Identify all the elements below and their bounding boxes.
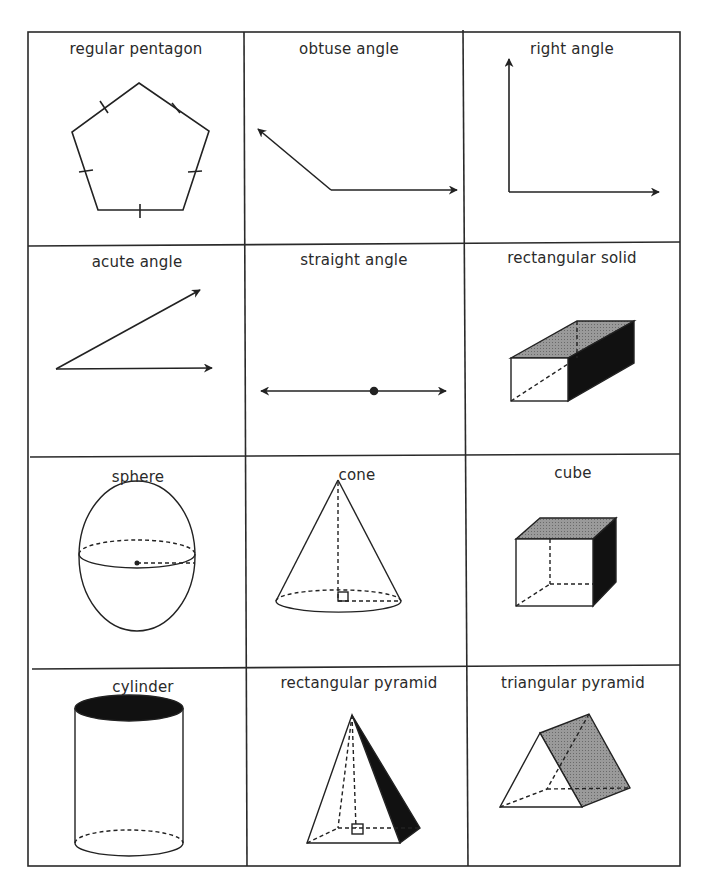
label-rectangular-solid: rectangular solid bbox=[507, 249, 636, 267]
obtuse-angle-figure bbox=[258, 129, 457, 190]
right-angle-figure bbox=[509, 59, 659, 192]
rectangular-solid-figure bbox=[511, 321, 634, 401]
label-cube: cube bbox=[554, 464, 591, 482]
label-acute-angle: acute angle bbox=[92, 253, 183, 271]
regular-pentagon-figure bbox=[72, 83, 209, 218]
sphere-figure bbox=[79, 481, 195, 631]
grid-and-figures bbox=[0, 0, 705, 895]
triangular-pyramid-figure bbox=[500, 714, 630, 807]
label-sphere: sphere bbox=[112, 468, 164, 486]
label-obtuse-angle: obtuse angle bbox=[299, 40, 399, 58]
cylinder-figure bbox=[75, 695, 183, 856]
label-straight-angle: straight angle bbox=[300, 251, 407, 269]
label-triangular-pyramid: triangular pyramid bbox=[501, 674, 645, 692]
rectangular-pyramid-figure bbox=[307, 715, 420, 843]
label-cone: cone bbox=[339, 466, 376, 484]
label-cylinder: cylinder bbox=[112, 678, 173, 696]
label-regular-pentagon: regular pentagon bbox=[69, 40, 202, 58]
acute-angle-figure bbox=[56, 290, 212, 369]
cone-figure bbox=[276, 480, 401, 612]
label-right-angle: right angle bbox=[530, 40, 614, 58]
cube-figure bbox=[516, 518, 616, 606]
geometry-terms-sheet: regular pentagon obtuse angle right angl… bbox=[0, 0, 705, 895]
straight-angle-figure bbox=[261, 388, 446, 395]
vertex-point bbox=[371, 388, 378, 395]
label-rectangular-pyramid: rectangular pyramid bbox=[280, 674, 437, 692]
